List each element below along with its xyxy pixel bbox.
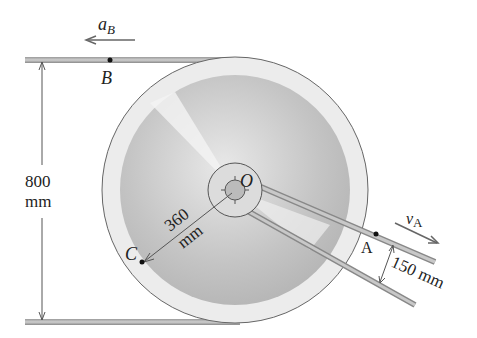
- vA-label: vA: [406, 210, 423, 230]
- hub: [208, 163, 262, 217]
- point-C: [140, 260, 145, 265]
- dim-800-value: 800: [25, 172, 51, 191]
- label-A: A: [361, 239, 373, 256]
- aB-label: aB: [98, 14, 115, 37]
- label-O: O: [240, 171, 253, 191]
- dim-150-label: 150 mm: [388, 252, 447, 292]
- label-C: C: [125, 244, 138, 264]
- label-B: B: [101, 68, 112, 88]
- dim-800-unit: mm: [25, 192, 51, 211]
- aB-arrow-icon: [86, 36, 135, 44]
- pulley-diagram: 800 mm aB B O C 360 mm A vA 150 mm: [0, 0, 477, 338]
- dim-800: [39, 62, 45, 320]
- point-A: [374, 232, 379, 237]
- point-B: [108, 58, 113, 63]
